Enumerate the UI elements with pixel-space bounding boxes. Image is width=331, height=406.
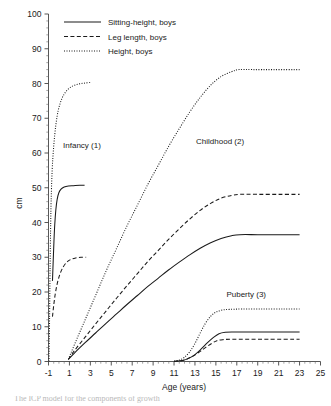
x-tick-label-group: -1135791113151719212325 bbox=[45, 368, 326, 378]
x-tick-label: 11 bbox=[170, 368, 179, 378]
y-tick-label: 70 bbox=[32, 113, 42, 123]
x-tick-label: 9 bbox=[151, 368, 156, 378]
x-tick-label: 5 bbox=[109, 368, 114, 378]
y-tick-label: 60 bbox=[32, 148, 42, 158]
annotation-group: Infancy (1)Childhood (2)Puberty (3) bbox=[63, 137, 266, 299]
chart-legend: Sitting-height, boysLeg length, boysHeig… bbox=[64, 18, 176, 56]
growth-chart-figure: 0102030405060708090100 cm -1135791113151… bbox=[0, 0, 331, 406]
y-tick-label: 100 bbox=[27, 9, 41, 19]
y-tick-group bbox=[45, 14, 49, 362]
curve-childhood-height bbox=[68, 69, 299, 359]
y-axis-title: cm bbox=[14, 197, 24, 208]
x-tick-label: 23 bbox=[295, 368, 305, 378]
figure-caption: The ICP model for the components of grow… bbox=[14, 396, 160, 403]
annotation-label: Infancy (1) bbox=[63, 141, 101, 150]
figure-caption-strip: The ICP model for the components of grow… bbox=[0, 396, 331, 406]
y-tick-label: 10 bbox=[32, 322, 42, 332]
x-tick-label: 25 bbox=[316, 368, 326, 378]
legend-label: Sitting-height, boys bbox=[108, 18, 176, 27]
y-tick-label: 20 bbox=[32, 287, 42, 297]
y-tick-label: 50 bbox=[32, 183, 42, 193]
curve-infancy-leg_length bbox=[52, 257, 86, 316]
annotation-label: Childhood (2) bbox=[196, 137, 244, 146]
y-tick-label: 30 bbox=[32, 252, 42, 262]
y-axis: 0102030405060708090100 cm bbox=[14, 9, 49, 367]
x-tick-label: 3 bbox=[88, 368, 93, 378]
y-tick-label: 90 bbox=[32, 44, 42, 54]
x-tick-label: 15 bbox=[211, 368, 221, 378]
x-tick-label: 1 bbox=[67, 368, 72, 378]
x-tick-label: 17 bbox=[232, 368, 242, 378]
y-tick-label: 0 bbox=[37, 357, 42, 367]
curve-puberty-leg_length bbox=[174, 339, 300, 361]
y-tick-label-group: 0102030405060708090100 bbox=[27, 9, 41, 367]
chart-svg: 0102030405060708090100 cm -1135791113151… bbox=[0, 0, 331, 406]
curve-puberty-height bbox=[174, 309, 300, 361]
x-tick-label: -1 bbox=[45, 368, 53, 378]
y-tick-label: 40 bbox=[32, 218, 42, 228]
x-tick-label: 7 bbox=[130, 368, 135, 378]
x-axis: -1135791113151719212325 Age (years) bbox=[45, 362, 326, 393]
x-tick-label: 13 bbox=[190, 368, 200, 378]
curve-infancy-sitting_height bbox=[52, 185, 84, 281]
curve-group bbox=[49, 69, 300, 361]
legend-label: Height, boys bbox=[108, 47, 152, 56]
x-tick-label: 19 bbox=[253, 368, 263, 378]
x-axis-title: Age (years) bbox=[162, 382, 206, 392]
curve-childhood-leg_length bbox=[68, 194, 299, 359]
y-tick-label: 80 bbox=[32, 79, 42, 89]
x-tick-label: 21 bbox=[274, 368, 284, 378]
legend-label: Leg length, boys bbox=[108, 33, 167, 42]
annotation-label: Puberty (3) bbox=[226, 290, 266, 299]
x-tick-group bbox=[49, 362, 321, 366]
